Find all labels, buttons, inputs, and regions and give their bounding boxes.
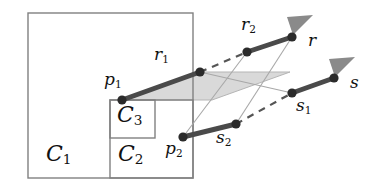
dot-r-end — [287, 32, 296, 41]
label-r1-base: r — [154, 44, 162, 64]
label-c2: C2 — [118, 143, 144, 167]
label-c2-subscript: 2 — [135, 151, 144, 167]
label-s1-subscript: 1 — [305, 104, 312, 116]
segment-s1-s — [292, 78, 334, 93]
label-c3: C3 — [117, 104, 143, 128]
label-p1-subscript: 1 — [115, 78, 122, 90]
label-r1: r1 — [154, 46, 169, 64]
label-s2-subscript: 2 — [225, 136, 232, 148]
label-c3-base: C — [117, 102, 134, 127]
label-r2-base: r — [241, 14, 249, 34]
label-r-base: r — [308, 30, 316, 50]
label-s-base: s — [350, 72, 359, 92]
dash-s2-s1 — [236, 93, 292, 124]
label-r1-subscript: 1 — [162, 53, 169, 65]
label-c1-base: C — [46, 141, 63, 166]
translation-band — [122, 72, 290, 100]
label-p1: p1 — [104, 71, 122, 89]
label-s1-base: s — [296, 95, 305, 115]
label-r: r — [308, 32, 316, 49]
label-r2: r2 — [241, 16, 256, 34]
label-r2-subscript: 2 — [249, 23, 256, 35]
label-c3-subscript: 3 — [134, 112, 143, 128]
dot-s-end — [329, 73, 338, 82]
label-p2-subscript: 2 — [176, 147, 183, 159]
label-s1: s1 — [296, 97, 311, 115]
dot-r2 — [242, 47, 251, 56]
label-c1: C1 — [46, 143, 72, 167]
label-p2: p2 — [165, 140, 183, 158]
label-p2-base: p — [165, 138, 176, 158]
direction-arrows — [287, 15, 355, 77]
label-c2-base: C — [118, 141, 135, 166]
dot-s2 — [231, 119, 240, 128]
label-s2-base: s — [216, 127, 225, 147]
label-p1-base: p — [104, 69, 115, 89]
geometry-figure: C1C2C3p1r1p2s2r2rs1s — [0, 0, 380, 194]
label-s: s — [350, 74, 359, 91]
label-c1-subscript: 1 — [63, 151, 72, 167]
label-s2: s2 — [216, 129, 231, 147]
dot-r1 — [195, 67, 204, 76]
segment-r2-r — [247, 37, 292, 52]
